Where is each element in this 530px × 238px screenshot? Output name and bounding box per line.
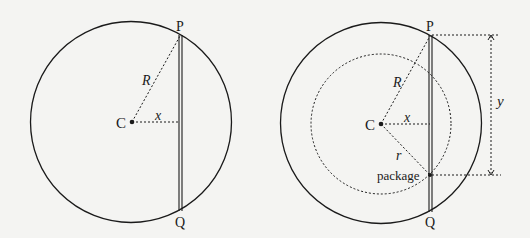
- label-P: P: [176, 19, 184, 34]
- package-dot: [428, 173, 432, 177]
- label-C: C: [365, 117, 375, 133]
- label-r: r: [396, 148, 402, 163]
- label-x: x: [154, 108, 162, 123]
- figure-right: P Q C R x r package y: [281, 19, 505, 230]
- figure-left: P Q C R x: [31, 19, 232, 230]
- label-package: package: [377, 168, 420, 183]
- label-Q: Q: [425, 215, 435, 230]
- label-y: y: [495, 93, 504, 109]
- center-dot: [379, 122, 384, 127]
- diagram-canvas: P Q C R x P Q C R x r package y: [0, 0, 530, 238]
- label-P: P: [426, 19, 434, 34]
- label-x: x: [403, 110, 411, 125]
- label-C: C: [116, 115, 126, 131]
- label-Q: Q: [175, 215, 185, 230]
- label-R: R: [141, 73, 151, 88]
- label-R: R: [392, 75, 402, 90]
- center-dot: [130, 120, 135, 125]
